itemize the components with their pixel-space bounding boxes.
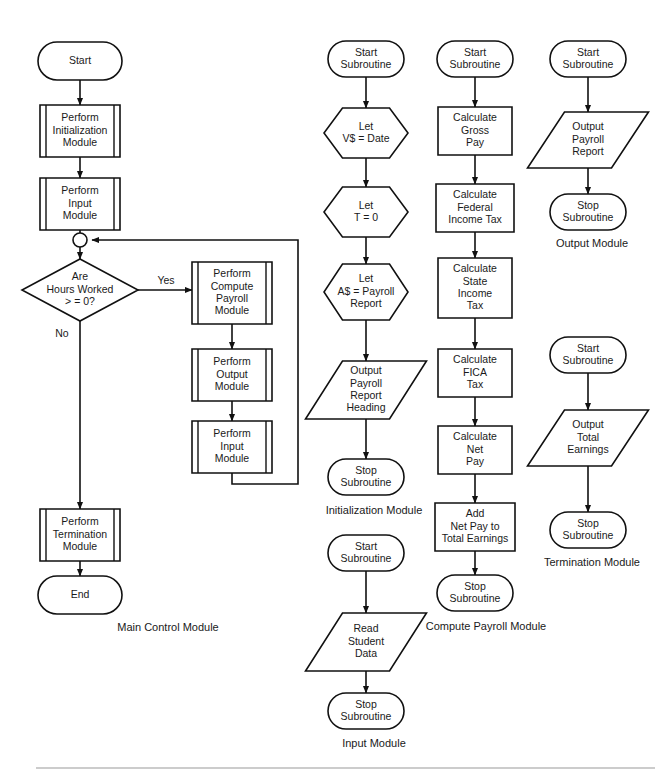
flow-node-cp-net: CalculateNetPay: [438, 426, 512, 474]
node-label: Federal: [457, 201, 493, 213]
node-label: Income Tax: [448, 213, 502, 225]
flowchart-nodes-layer: StartPerformInitializationModulePerformI…: [22, 41, 648, 729]
flow-node-cp-fica: CalculateFICATax: [438, 349, 512, 397]
node-label: Subroutine: [450, 592, 501, 604]
flowchart-canvas: StartPerformInitializationModulePerformI…: [0, 0, 665, 778]
node-label: FICA: [463, 366, 487, 378]
node-label: Perform: [213, 355, 251, 367]
node-label: Total: [577, 431, 599, 443]
node-label: Calculate: [453, 188, 497, 200]
module-caption-termination-module: Termination Module: [544, 556, 640, 568]
flow-node-cp-stop: StopSubroutine: [437, 575, 513, 611]
node-label: Subroutine: [563, 58, 614, 70]
node-label: Module: [215, 452, 250, 464]
node-label: Heading: [346, 401, 385, 413]
flow-node-init-output: OutputPayrollReportHeading: [306, 361, 427, 419]
node-label: Module: [63, 136, 98, 148]
node-label: Calculate: [453, 111, 497, 123]
node-label: Add: [466, 507, 485, 519]
flow-node-inp-start: StartSubroutine: [328, 535, 404, 571]
node-label: > = 0?: [65, 295, 95, 307]
node-label: Subroutine: [563, 354, 614, 366]
flow-node-cp-start: StartSubroutine: [437, 41, 513, 77]
node-label: Perform: [213, 267, 251, 279]
node-label: Data: [355, 647, 377, 659]
node-label: Module: [63, 209, 98, 221]
branch-label-no-label: No: [55, 327, 69, 339]
node-label: T = 0: [354, 211, 378, 223]
flow-node-main-input-2: PerformInputModule: [192, 421, 272, 473]
flow-node-trm-start: StartSubroutine: [550, 337, 626, 373]
flow-node-main-output: PerformOutputModule: [192, 349, 272, 401]
flow-node-cp-state: CalculateStateIncomeTax: [438, 258, 512, 318]
node-label: Calculate: [453, 262, 497, 274]
flow-node-main-start: Start: [38, 42, 122, 80]
node-label: Stop: [577, 517, 599, 529]
node-label: Let: [359, 199, 374, 211]
node-label: Perform: [61, 184, 99, 196]
node-label: Start: [464, 46, 486, 58]
node-label: Pay: [466, 455, 485, 467]
flow-node-cp-add: AddNet Pay toTotal Earnings: [435, 503, 515, 551]
node-label: Subroutine: [341, 710, 392, 722]
flow-node-main-init: PerformInitializationModule: [40, 105, 120, 157]
node-label: Start: [355, 540, 377, 552]
node-label: Subroutine: [341, 476, 392, 488]
node-label: Subroutine: [341, 58, 392, 70]
node-label: Read: [353, 622, 378, 634]
node-label: Compute: [211, 280, 254, 292]
flow-node-main-junction: [73, 233, 87, 247]
module-caption-main-control-module: Main Control Module: [117, 621, 219, 633]
node-label: Calculate: [453, 353, 497, 365]
node-label: Report: [572, 145, 604, 157]
flow-node-trm-earnings: OutputTotalEarnings: [528, 410, 649, 466]
node-label: Gross: [461, 124, 489, 136]
node-label: Net: [467, 443, 483, 455]
node-label: Report: [350, 297, 382, 309]
flow-node-inp-read: ReadStudentData: [306, 613, 427, 671]
module-caption-compute-payroll-module: Compute Payroll Module: [426, 620, 546, 632]
node-label: Input: [68, 197, 91, 209]
node-label: Payroll: [350, 377, 382, 389]
node-label: Input: [220, 440, 243, 452]
flow-node-init-let-t: LetT = 0: [324, 187, 408, 237]
node-label: A$ = Payroll: [338, 285, 395, 297]
node-label: Net Pay to: [450, 520, 499, 532]
flow-node-out-stop: StopSubroutine: [550, 194, 626, 230]
node-label: Start: [577, 342, 599, 354]
node-label: Payroll: [572, 133, 604, 145]
node-label: Pay: [466, 136, 485, 148]
node-label: Report: [350, 389, 382, 401]
module-caption-initialization-module: Initialization Module: [326, 504, 423, 516]
node-label: Subroutine: [563, 211, 614, 223]
branch-label-yes-label: Yes: [157, 274, 174, 286]
flow-node-init-stop: StopSubroutine: [328, 459, 404, 495]
module-caption-input-module: Input Module: [342, 737, 406, 749]
node-label: Income: [458, 287, 493, 299]
node-label: Start: [69, 54, 91, 66]
node-label: Perform: [213, 427, 251, 439]
flow-node-main-termination: PerformTerminationModule: [40, 509, 120, 561]
flow-node-init-let-a: LetA$ = PayrollReport: [324, 264, 408, 320]
node-label: Subroutine: [341, 552, 392, 564]
flow-node-main-decision: AreHours Worked> = 0?: [22, 259, 138, 321]
node-label: Calculate: [453, 430, 497, 442]
node-label: Termination: [53, 528, 107, 540]
flow-node-main-compute: PerformComputePayrollModule: [192, 262, 272, 324]
flow-node-init-let-v: LetV$ = Date: [324, 108, 408, 158]
node-label: Student: [348, 635, 384, 647]
flow-node-out-report: OutputPayrollReport: [528, 112, 649, 168]
flow-node-main-end: End: [38, 576, 122, 614]
flow-node-cp-gross: CalculateGrossPay: [438, 107, 512, 155]
node-label: Subroutine: [450, 58, 501, 70]
flow-node-inp-stop: StopSubroutine: [328, 693, 404, 729]
node-label: Output: [216, 368, 248, 380]
node-label: Module: [215, 380, 250, 392]
node-label: State: [463, 275, 488, 287]
node-label: Start: [355, 46, 377, 58]
node-label: Stop: [464, 580, 486, 592]
flow-node-init-start: StartSubroutine: [328, 41, 404, 77]
flow-node-out-start: StartSubroutine: [550, 41, 626, 77]
node-label: Hours Worked: [47, 283, 114, 295]
node-label: Module: [215, 304, 250, 316]
